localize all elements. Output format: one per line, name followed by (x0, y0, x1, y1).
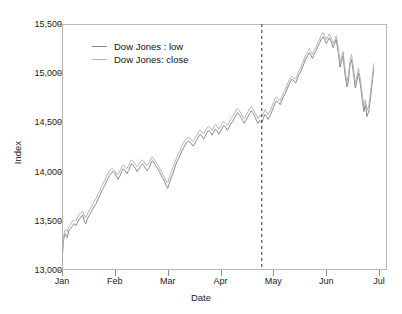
x-tick-label: Apr (214, 276, 228, 286)
y-tick-mark (56, 172, 62, 173)
y-tick-mark (56, 73, 62, 74)
y-tick-mark (56, 221, 62, 222)
x-tick-mark (221, 270, 222, 276)
y-tick-mark (56, 24, 62, 25)
x-tick-mark (62, 270, 63, 276)
x-tick-label: Feb (107, 276, 123, 286)
legend-line-swatch (92, 46, 107, 47)
x-tick-label: Jul (373, 276, 385, 286)
series-line-low (62, 37, 374, 262)
legend-label: Dow Jones: close (114, 54, 188, 65)
series-line-close (62, 33, 374, 258)
x-tick-mark (115, 270, 116, 276)
y-tick-mark (56, 122, 62, 123)
x-tick-label: May (265, 276, 282, 286)
y-axis-title: Index (12, 123, 23, 183)
chart-legend: Dow Jones : lowDow Jones: close (92, 40, 188, 66)
x-tick-label: Mar (160, 276, 176, 286)
legend-line-swatch (92, 59, 107, 60)
x-tick-label: Jan (55, 276, 70, 286)
x-tick-mark (273, 270, 274, 276)
series-layer (62, 33, 374, 262)
x-tick-mark (326, 270, 327, 276)
legend-item-low[interactable]: Dow Jones : low (92, 40, 188, 53)
dow-jones-line-chart: Index Date Dow Jones : lowDow Jones: clo… (0, 0, 402, 314)
legend-item-close[interactable]: Dow Jones: close (92, 53, 188, 66)
legend-label: Dow Jones : low (114, 41, 183, 52)
x-tick-mark (379, 270, 380, 276)
x-tick-label: Jun (319, 276, 334, 286)
x-tick-mark (168, 270, 169, 276)
x-axis-title: Date (0, 292, 402, 303)
